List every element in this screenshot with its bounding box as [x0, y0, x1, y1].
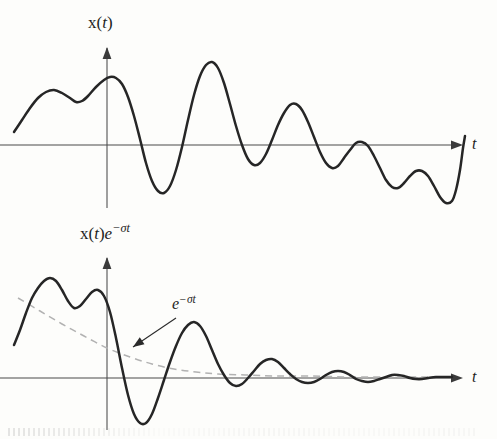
- bottom-y-axis-label-x: x(: [80, 224, 94, 243]
- envelope-pointer-arrowhead: [133, 337, 144, 347]
- envelope-annotation-exponent: −σt: [179, 293, 196, 305]
- top-y-axis-label-x: x(: [88, 13, 102, 32]
- bottom-y-axis-label-exp-base: e: [105, 224, 113, 243]
- scan-artifact-smudge: [8, 428, 478, 436]
- top-x-axis-arrowhead: [451, 141, 463, 150]
- figure-container: x(t) t x(t)e−σt t e−σt: [0, 0, 497, 439]
- top-y-axis-label: x(t): [88, 14, 113, 31]
- figure-canvas: [0, 0, 497, 439]
- bottom-y-axis-label-exponent: −σt: [112, 221, 130, 235]
- bottom-y-axis-arrowhead: [103, 257, 112, 269]
- bottom-y-axis-label: x(t)e−σt: [80, 222, 130, 242]
- top-y-axis-label-close: ): [107, 13, 113, 32]
- top-y-axis-arrowhead: [103, 47, 112, 59]
- signal-curve-xt: [14, 62, 465, 203]
- exponential-envelope-curve: [18, 298, 450, 377]
- bottom-panel: [0, 257, 463, 430]
- bottom-x-axis-label: t: [472, 369, 476, 385]
- envelope-annotation-label: e−σt: [172, 294, 196, 312]
- top-x-axis-label: t: [472, 136, 476, 152]
- signal-curve-damped: [14, 278, 452, 424]
- bottom-x-axis-arrowhead: [451, 374, 463, 383]
- top-panel: [0, 47, 465, 208]
